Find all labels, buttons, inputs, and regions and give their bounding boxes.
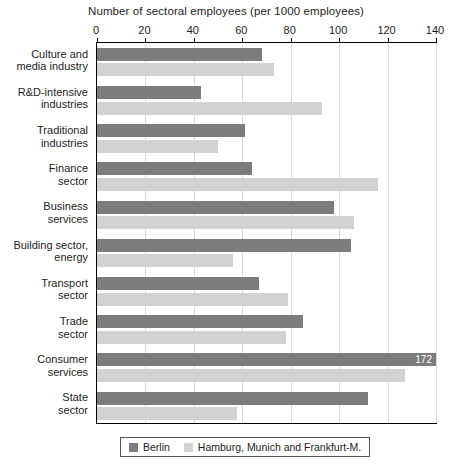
legend-label: Berlin <box>143 441 170 453</box>
bar-value-label: 172 <box>415 353 432 366</box>
axis-tickmark <box>194 38 195 43</box>
category-label: Financesector <box>0 162 88 187</box>
category-label-line: Trade <box>0 315 88 328</box>
category-label-line: Building sector, <box>0 239 88 252</box>
category-label-line: State <box>0 391 88 404</box>
axis-tickmark <box>436 38 437 43</box>
bar-berlin <box>97 124 245 137</box>
x-tick-label: 100 <box>329 24 347 36</box>
category-label: R&D-intensiveindustries <box>0 86 88 111</box>
category-label: Statesector <box>0 391 88 416</box>
bar-berlin <box>97 315 303 328</box>
bar-other <box>97 254 233 267</box>
axis-tickmark <box>145 38 146 43</box>
category-label-line: Transport <box>0 277 88 290</box>
category-label: Transportsector <box>0 277 88 302</box>
bar-other <box>97 407 237 420</box>
bar-other <box>97 216 354 229</box>
category-label-line: Consumer <box>0 353 88 366</box>
gridline <box>436 43 437 423</box>
legend-label: Hamburg, Munich and Frankfurt-M. <box>198 441 361 453</box>
bar-other <box>97 102 322 115</box>
chart-legend: BerlinHamburg, Munich and Frankfurt-M. <box>120 437 370 457</box>
x-tick-label: 20 <box>138 24 150 36</box>
category-label-line: sector <box>0 328 88 341</box>
x-tick-label: 40 <box>187 24 199 36</box>
category-label: Building sector,energy <box>0 239 88 264</box>
bar-berlin <box>97 86 201 99</box>
category-label-line: media industry <box>0 60 88 73</box>
axis-tickmark <box>242 38 243 43</box>
category-label-line: industries <box>0 137 88 150</box>
bar-other <box>97 178 378 191</box>
category-label-line: Finance <box>0 162 88 175</box>
axis-tickmark <box>339 38 340 43</box>
category-label: Traditionalindustries <box>0 124 88 149</box>
category-label-line: Traditional <box>0 124 88 137</box>
bar-berlin <box>97 48 262 61</box>
category-label-line: services <box>0 366 88 379</box>
category-label-line: energy <box>0 251 88 264</box>
bar-berlin <box>97 162 252 175</box>
category-label: Tradesector <box>0 315 88 340</box>
category-label: Consumerservices <box>0 353 88 378</box>
category-label: Businessservices <box>0 200 88 225</box>
category-label-line: sector <box>0 175 88 188</box>
bar-chart: Number of sectoral employees (per 1000 e… <box>0 0 452 471</box>
legend-swatch-berlin <box>129 443 138 452</box>
x-tick-label: 120 <box>377 24 395 36</box>
legend-swatch-other <box>184 443 193 452</box>
bar-berlin: 172 <box>97 353 436 366</box>
x-tick-label: 60 <box>235 24 247 36</box>
axis-tickmark <box>388 38 389 43</box>
category-label-line: sector <box>0 289 88 302</box>
category-label-line: Culture and <box>0 48 88 61</box>
x-tick-label: 0 <box>93 24 99 36</box>
bar-other <box>97 63 274 76</box>
x-tick-label: 80 <box>284 24 296 36</box>
bar-other <box>97 140 218 153</box>
category-label-line: Business <box>0 200 88 213</box>
category-label-line: industries <box>0 98 88 111</box>
legend-item[interactable]: Berlin <box>129 441 170 453</box>
chart-title: Number of sectoral employees (per 1000 e… <box>0 5 452 17</box>
bar-berlin <box>97 201 334 214</box>
category-label-line: services <box>0 213 88 226</box>
x-axis-tick-labels: 020406080100120140 <box>0 24 452 38</box>
y-axis-category-labels: Culture andmedia industryR&D-intensivein… <box>0 42 92 424</box>
category-label-line: R&D-intensive <box>0 86 88 99</box>
plot-area: 172 <box>96 42 437 424</box>
bar-other <box>97 293 288 306</box>
bar-other <box>97 331 286 344</box>
bar-other <box>97 369 405 382</box>
legend-item[interactable]: Hamburg, Munich and Frankfurt-M. <box>184 441 361 453</box>
axis-tickmark <box>291 38 292 43</box>
axis-tickmark <box>97 38 98 43</box>
bar-berlin <box>97 392 368 405</box>
category-label: Culture andmedia industry <box>0 48 88 73</box>
bar-berlin <box>97 239 351 252</box>
category-label-line: sector <box>0 404 88 417</box>
x-tick-label: 140 <box>426 24 444 36</box>
bar-berlin <box>97 277 259 290</box>
